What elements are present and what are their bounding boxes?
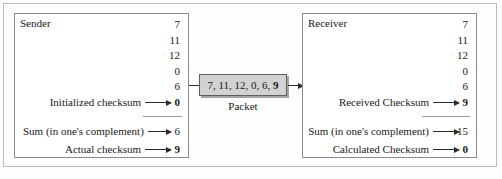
sender-row-value: 0 — [154, 95, 180, 111]
receiver-row-value: 9 — [442, 95, 468, 111]
receiver-row-received-checksum: Received Checksum 9 — [311, 95, 468, 111]
sender-number: 7 — [154, 17, 180, 33]
receiver-number: 12 — [442, 48, 468, 64]
sender-row-value: 9 — [154, 142, 180, 158]
receiver-number-column: 7 11 12 0 6 — [442, 17, 468, 95]
checksum-diagram: Sender 7 11 12 0 6 Initialized checksum … — [0, 0, 502, 179]
receiver-number: 7 — [442, 17, 468, 33]
receiver-title: Receiver — [308, 17, 347, 29]
sender-title: Sender — [20, 17, 51, 29]
receiver-number: 6 — [442, 79, 468, 95]
receiver-number: 11 — [442, 33, 468, 49]
receiver-row-sum: Sum (in one's complement) 15 — [305, 124, 468, 140]
packet-checksum: 9 — [273, 79, 279, 91]
packet-box: 7, 11, 12, 0, 6, 9 — [199, 74, 287, 96]
sender-row-sum: Sum (in one's complement) 6 — [23, 124, 180, 140]
receiver-row-label: Sum (in one's complement) — [308, 124, 429, 140]
packet-group: 7, 11, 12, 0, 6, 9 Packet — [199, 74, 287, 96]
sender-box: Sender 7 11 12 0 6 Initialized checksum … — [14, 13, 189, 158]
receiver-row-label: Calculated Checksum — [333, 142, 429, 158]
receiver-sum-rule — [422, 116, 470, 117]
receiver-row-value: 0 — [442, 142, 468, 158]
sender-row-value: 6 — [154, 124, 180, 140]
sender-number: 6 — [154, 79, 180, 95]
receiver-row-calculated-checksum: Calculated Checksum 0 — [311, 142, 468, 158]
packet-data: 7, 11, 12, 0, 6, — [207, 79, 273, 91]
sender-sum-rule — [143, 116, 182, 117]
receiver-row-value: 15 — [442, 124, 468, 140]
sender-row-label: Initialized checksum — [50, 95, 141, 111]
sender-row-label: Actual checksum — [65, 142, 141, 158]
sender-row-actual-checksum: Actual checksum 9 — [23, 142, 180, 158]
packet-to-receiver-arrow — [288, 85, 303, 86]
sender-number: 0 — [154, 64, 180, 80]
receiver-number: 0 — [442, 64, 468, 80]
receiver-box: Receiver 7 11 12 0 6 Received Checksum 9… — [302, 13, 477, 158]
sender-row-label: Sum (in one's complement) — [23, 124, 144, 140]
sender-number-column: 7 11 12 0 6 — [154, 17, 180, 95]
packet-caption: Packet — [199, 100, 287, 113]
sender-row-initialized-checksum: Initialized checksum 0 — [23, 95, 180, 111]
sender-number: 12 — [154, 48, 180, 64]
receiver-row-label: Received Checksum — [339, 95, 429, 111]
sender-number: 11 — [154, 33, 180, 49]
